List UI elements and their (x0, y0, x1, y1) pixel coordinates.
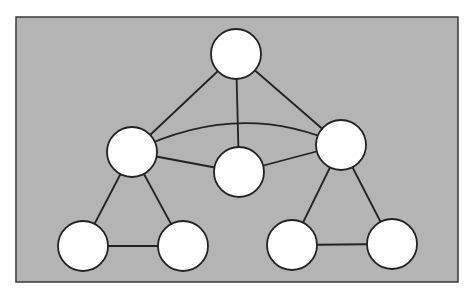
node-mid-left (107, 127, 157, 177)
node-bottom-right-1 (267, 220, 317, 270)
node-bottom-left-1 (58, 221, 108, 271)
node-bottom-left-2 (158, 221, 208, 271)
node-center (214, 147, 264, 197)
node-mid-right (316, 120, 366, 170)
graph-diagram (0, 0, 470, 292)
node-top (211, 29, 261, 79)
node-bottom-right-2 (367, 219, 417, 269)
